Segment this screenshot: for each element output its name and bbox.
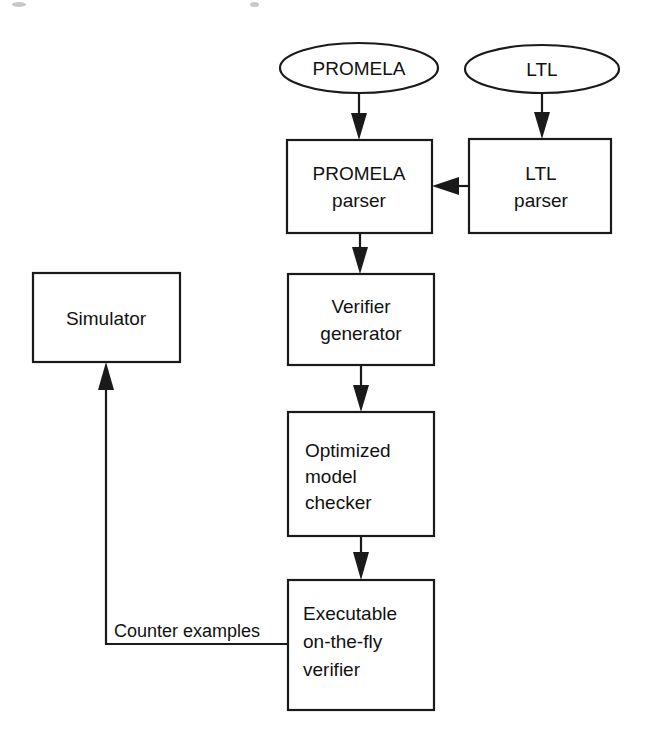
edge-ltl-parser-to-promela-parser [432, 177, 469, 195]
promela-parser-box[interactable] [287, 140, 432, 233]
edge-verifier-generator-to-model-checker [353, 365, 369, 412]
executable-verifier-label-line2: on-the-fly [303, 631, 383, 652]
edge-ltl-input-to-ltl-parser [534, 93, 550, 139]
ltl-parser-box[interactable] [469, 139, 611, 233]
flowchart: PROMELA LTL PROMELA parser LTL parser Ve… [0, 0, 648, 740]
verifier-generator-box[interactable] [288, 274, 434, 365]
diagram-canvas: PROMELA LTL PROMELA parser LTL parser Ve… [0, 0, 648, 740]
optimized-model-checker-label-line2: model [305, 466, 357, 487]
ltl-parser-label-line1: LTL [525, 163, 556, 184]
ltl-input-label: LTL [526, 59, 557, 80]
verifier-generator-label-line1: Verifier [331, 296, 391, 317]
node-ltl-input[interactable]: LTL [465, 45, 619, 93]
ltl-parser-label-line2: parser [514, 190, 569, 211]
executable-verifier-label-line3: verifier [303, 659, 361, 680]
simulator-label: Simulator [66, 308, 147, 329]
node-executable-verifier[interactable]: Executable on-the-fly verifier [288, 580, 434, 710]
node-simulator[interactable]: Simulator [33, 273, 180, 362]
edge-executable-verifier-to-simulator [98, 362, 288, 644]
node-optimized-model-checker[interactable]: Optimized model checker [288, 412, 434, 536]
edge-promela-parser-to-verifier-generator [352, 233, 368, 274]
promela-input-label: PROMELA [313, 58, 406, 79]
counter-examples-edge-label: Counter examples [114, 621, 260, 641]
node-promela-input[interactable]: PROMELA [280, 43, 438, 93]
edge-model-checker-to-executable-verifier [353, 536, 369, 580]
optimized-model-checker-label-line3: checker [305, 492, 372, 513]
node-ltl-parser[interactable]: LTL parser [469, 139, 611, 233]
executable-verifier-label-line1: Executable [303, 603, 397, 624]
promela-parser-label-line2: parser [332, 190, 387, 211]
optimized-model-checker-label-line1: Optimized [305, 440, 391, 461]
node-promela-parser[interactable]: PROMELA parser [287, 140, 432, 233]
edge-promela-input-to-parser [351, 92, 367, 140]
node-verifier-generator[interactable]: Verifier generator [288, 274, 434, 365]
promela-parser-label-line1: PROMELA [313, 163, 406, 184]
verifier-generator-label-line2: generator [320, 323, 402, 344]
